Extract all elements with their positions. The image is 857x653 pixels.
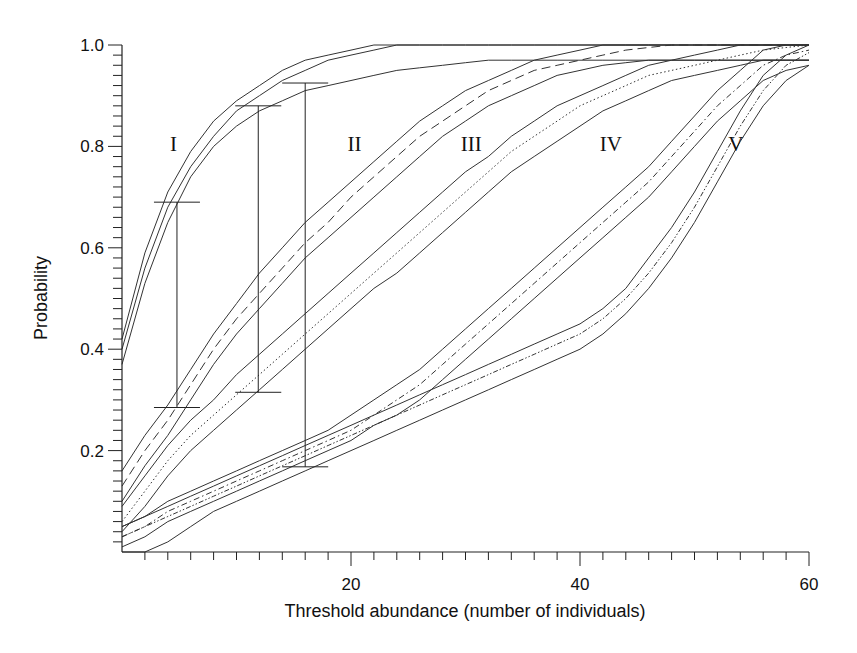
mean-line	[122, 53, 809, 537]
series-ii	[122, 45, 809, 501]
upper-bound-line	[122, 45, 809, 527]
series-label-v: V	[728, 132, 743, 156]
y-tick-label: 0.8	[80, 137, 104, 156]
axes: 2040600.20.40.60.81.0	[80, 36, 818, 594]
series-label-ii: II	[347, 132, 361, 156]
probability-chart: 2040600.20.40.60.81.0 IIIIIIIVV Threshol…	[0, 0, 857, 653]
series-labels: IIIIIIIVV	[170, 132, 743, 156]
mean-line	[122, 45, 809, 522]
series-i	[122, 45, 809, 364]
lower-bound-line	[122, 60, 809, 501]
y-tick-label: 0.4	[80, 340, 104, 359]
x-tick-label: 40	[571, 575, 590, 594]
y-tick-label: 0.6	[80, 239, 104, 258]
upper-bound-line	[122, 45, 809, 471]
upper-bound-line	[122, 45, 809, 506]
lower-bound-line	[122, 60, 809, 532]
x-axis-title: Threshold abundance (number of individua…	[284, 601, 645, 621]
series-label-i: I	[170, 132, 177, 156]
y-tick-label: 1.0	[80, 36, 104, 55]
series-iii	[122, 45, 809, 532]
series-label-iii: III	[461, 132, 482, 156]
error-bar-group	[154, 83, 328, 467]
error-bar	[235, 106, 281, 392]
x-tick-label: 60	[800, 575, 819, 594]
y-tick-label: 0.2	[80, 442, 104, 461]
series-label-iv: IV	[600, 132, 622, 156]
y-axis-title: Probability	[31, 256, 51, 340]
x-tick-label: 20	[342, 575, 361, 594]
error-bar	[282, 83, 328, 467]
upper-bound-line	[122, 45, 809, 527]
curve-group	[122, 45, 809, 552]
series-iv	[122, 45, 809, 547]
error-bar	[154, 202, 200, 407]
